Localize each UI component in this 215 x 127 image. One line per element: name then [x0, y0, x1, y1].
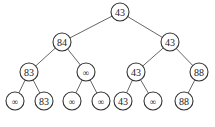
node-label: 84 [57, 37, 67, 48]
tree-edge [36, 48, 56, 66]
tree-node: 88 [190, 63, 208, 81]
tree-edge [68, 49, 81, 65]
tree-edges [19, 16, 195, 93]
tree-node: 83 [20, 63, 38, 81]
tree-node: 43 [111, 3, 129, 21]
tree-edge [176, 48, 192, 65]
tree-edge [70, 16, 112, 38]
tree-edge [33, 80, 40, 93]
tree-node: ∞ [92, 92, 110, 110]
node-label: ∞ [150, 97, 156, 107]
tree-edge [128, 17, 163, 38]
node-label: 43 [115, 7, 125, 18]
node-label: 83 [39, 96, 49, 107]
tree-node: ∞ [6, 92, 24, 110]
tree-edge [76, 80, 82, 93]
node-label: 43 [118, 96, 128, 107]
node-label: ∞ [98, 97, 104, 107]
tree-edge [127, 80, 133, 93]
node-label: ∞ [83, 68, 89, 78]
tree-node: 43 [114, 92, 132, 110]
node-label: 88 [179, 96, 189, 107]
tree-edge [188, 80, 195, 93]
tree-node: 84 [53, 33, 71, 51]
tree-edge [19, 80, 25, 93]
tree-edge [143, 48, 164, 66]
tree-node: ∞ [77, 63, 95, 81]
tree-node: 43 [161, 33, 179, 51]
node-label: ∞ [12, 97, 18, 107]
node-label: 43 [165, 37, 175, 48]
node-label: 43 [131, 67, 141, 78]
node-label: 88 [194, 67, 204, 78]
tree-node: ∞ [144, 92, 162, 110]
node-label: 83 [24, 67, 34, 78]
tree-node: 43 [127, 63, 145, 81]
tree-node: 83 [35, 92, 53, 110]
tree-diagram: 43844383∞4388∞83∞∞43∞88 [0, 0, 215, 127]
tree-node: 88 [175, 92, 193, 110]
tree-edge [90, 80, 97, 93]
tree-edge [141, 80, 149, 93]
tree-node: ∞ [63, 92, 81, 110]
node-label: ∞ [69, 97, 75, 107]
